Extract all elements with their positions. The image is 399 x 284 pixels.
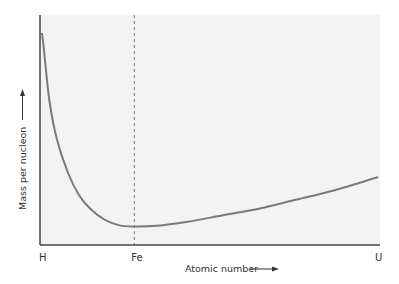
y-axis-label: Mass per nucleon	[17, 127, 28, 210]
x-axis-label: Atomic number	[185, 263, 258, 274]
x-tick-label-fe: Fe	[131, 252, 142, 263]
y-axis-arrowhead	[20, 89, 25, 96]
chart: HFeU Atomic number Mass per nucleon	[0, 0, 399, 284]
x-tick-label-u: U	[375, 252, 382, 263]
x-axis-arrowhead	[272, 267, 279, 272]
x-tick-label-h: H	[39, 252, 47, 263]
